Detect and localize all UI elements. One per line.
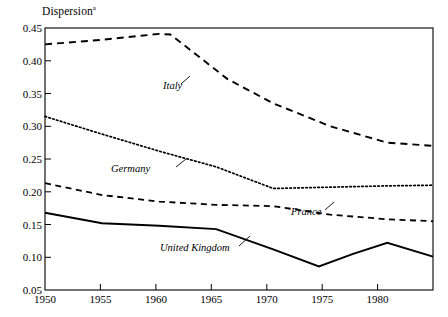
series-line-france	[45, 183, 433, 221]
annotation-leaders	[176, 76, 334, 246]
plot-frame	[45, 28, 433, 290]
series-line-italy	[45, 34, 433, 146]
x-axis-ticks	[100, 284, 377, 290]
dispersion-line-chart: Dispersiona 0.45 0.40 0.35 0.30 0.25 0.2…	[0, 0, 448, 317]
series-line-united-kingdom	[45, 213, 433, 267]
leader-line-france	[325, 202, 334, 210]
series-label-france: France	[291, 206, 321, 217]
series-lines	[45, 34, 433, 267]
y-axis-ticks	[45, 61, 51, 257]
series-line-germany	[45, 116, 433, 188]
series-label-united-kingdom: United Kingdom	[160, 242, 230, 253]
series-label-germany: Germany	[111, 163, 150, 174]
leader-line-italy	[181, 76, 190, 84]
leader-line-germany	[176, 159, 186, 167]
series-label-italy: Italy	[163, 80, 182, 91]
chart-canvas	[0, 0, 448, 317]
